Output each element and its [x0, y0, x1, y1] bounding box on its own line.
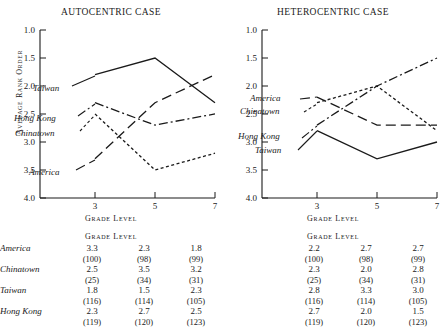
label-leader-taiwan	[72, 76, 95, 86]
table-autocentric: Grade Level America 3.3 2.3 1.8 (100) (9…	[0, 232, 222, 334]
cell-mean: 2.3	[66, 306, 118, 317]
table-row-counts: (116) (114) (105)	[222, 296, 444, 307]
x-axis-ticks-left: 3 5 7	[0, 198, 222, 212]
cell-mean: 2.0	[340, 264, 392, 275]
cell-count: (34)	[340, 275, 392, 286]
panel-heterocentric: HETEROCENTRIC CASE 1.0 1.5 2.0 2.5 3.0 3…	[222, 0, 444, 232]
row-label-blank	[0, 254, 66, 265]
series-label-hong-kong: Hong Kong	[14, 113, 56, 123]
cell-count: (100)	[66, 254, 118, 265]
table-row-counts: (25) (34) (31)	[0, 275, 222, 286]
label-leader-hong-kong	[78, 104, 95, 116]
row-label	[222, 243, 288, 254]
cell-count: (120)	[340, 317, 392, 328]
row-label: America	[0, 243, 66, 254]
table-row: Hong Kong 2.3 2.7 2.5	[0, 306, 222, 317]
cell-count: (116)	[288, 296, 340, 307]
cell-count: (31)	[170, 275, 222, 286]
cell-mean: 3.3	[66, 243, 118, 254]
table-row-counts: (119) (120) (123)	[222, 317, 444, 328]
table-header-autocentric: Grade Level	[0, 232, 222, 241]
cell-count: (99)	[392, 254, 444, 265]
cell-mean: 2.7	[340, 243, 392, 254]
cell-count: (98)	[118, 254, 170, 265]
cell-mean: 1.8	[170, 243, 222, 254]
label-leader-chinatown	[80, 115, 95, 131]
cell-count: (98)	[340, 254, 392, 265]
x-axis-label-left: Grade Level	[0, 214, 222, 223]
series-label-chinatown: Chinatown	[15, 128, 55, 138]
label-leader-hong-kong	[302, 126, 317, 138]
table-row-counts: (100) (98) (99)	[222, 254, 444, 265]
data-tables: Grade Level America 3.3 2.3 1.8 (100) (9…	[0, 232, 444, 334]
table-row-counts: (116) (114) (105)	[0, 296, 222, 307]
x-tick: 5	[367, 201, 387, 211]
cell-mean: 2.7	[288, 306, 340, 317]
cell-count: (105)	[392, 296, 444, 307]
x-tick: 3	[85, 201, 105, 211]
cell-count: (123)	[392, 317, 444, 328]
table-row: 2.3 2.0 2.8	[222, 264, 444, 275]
cell-mean: 2.7	[118, 306, 170, 317]
row-label: Taiwan	[0, 285, 66, 296]
cell-mean: 2.5	[66, 264, 118, 275]
table-row-counts: (100) (98) (99)	[0, 254, 222, 265]
series-line-taiwan	[317, 131, 437, 159]
series-label-hong-kong: Hong Kong	[238, 131, 280, 141]
series-label-chinatown: Chinatown	[240, 106, 280, 116]
row-label-blank	[0, 317, 66, 328]
cell-mean: 1.5	[118, 285, 170, 296]
label-leader-chinatown	[304, 104, 317, 112]
table-row: Chinatown 2.5 3.5 3.2	[0, 264, 222, 275]
figure: AUTOCENTRIC CASE Average Rank Order 1.0 …	[0, 0, 444, 334]
x-axis-label-right: Grade Level	[222, 214, 444, 223]
cell-mean: 3.5	[118, 264, 170, 275]
cell-count: (114)	[340, 296, 392, 307]
row-label-blank	[0, 275, 66, 286]
table-row-counts: (119) (120) (123)	[0, 317, 222, 328]
row-label: Chinatown	[0, 264, 66, 275]
table-row: America 3.3 2.3 1.8	[0, 243, 222, 254]
cell-mean: 2.3	[118, 243, 170, 254]
cell-mean: 3.0	[392, 285, 444, 296]
cell-count: (105)	[170, 296, 222, 307]
panel-autocentric: AUTOCENTRIC CASE Average Rank Order 1.0 …	[0, 0, 222, 232]
cell-mean: 2.5	[170, 306, 222, 317]
row-label-blank	[222, 296, 288, 307]
label-leader-america	[300, 97, 317, 99]
cell-count: (31)	[392, 275, 444, 286]
table-row: Taiwan 1.8 1.5 2.3	[0, 285, 222, 296]
series-label-taiwan: Taiwan	[33, 83, 59, 93]
series-label-america: America	[250, 93, 281, 103]
row-label-blank	[222, 254, 288, 265]
cell-mean: 2.3	[288, 264, 340, 275]
x-tick: 7	[427, 201, 444, 211]
row-label	[222, 264, 288, 275]
table-row: 2.2 2.7 2.7	[222, 243, 444, 254]
series-line-chinatown	[317, 86, 437, 131]
series-label-taiwan: Taiwan	[255, 145, 281, 155]
cell-mean: 3.2	[170, 264, 222, 275]
row-label-blank	[222, 275, 288, 286]
table-row-counts: (25) (34) (31)	[222, 275, 444, 286]
cell-mean: 2.7	[392, 243, 444, 254]
cell-count: (25)	[66, 275, 118, 286]
x-tick: 3	[307, 201, 327, 211]
cell-count: (119)	[66, 317, 118, 328]
cell-mean: 2.8	[288, 285, 340, 296]
series-label-america: America	[29, 167, 60, 177]
row-label	[222, 306, 288, 317]
table-row: 2.8 3.3 3.0	[222, 285, 444, 296]
cell-count: (123)	[170, 317, 222, 328]
table-header-heterocentric: Grade Level	[222, 232, 444, 241]
series-line-hong-kong	[95, 103, 215, 125]
row-label	[222, 285, 288, 296]
cell-count: (120)	[118, 317, 170, 328]
label-leader-america	[76, 160, 95, 170]
cell-mean: 2.0	[340, 306, 392, 317]
x-tick: 5	[145, 201, 165, 211]
row-label-blank	[222, 317, 288, 328]
cell-count: (114)	[118, 296, 170, 307]
cell-count: (116)	[66, 296, 118, 307]
cell-count: (99)	[170, 254, 222, 265]
